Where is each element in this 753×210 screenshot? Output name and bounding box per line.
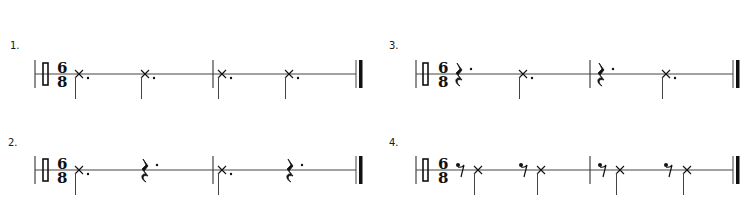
final-barline-thick xyxy=(736,156,740,184)
dot-icon xyxy=(87,173,89,175)
rest-flag xyxy=(600,165,606,177)
dot-icon xyxy=(230,173,232,175)
time-signature-bottom: 8 xyxy=(57,169,67,187)
dot-icon xyxy=(470,68,472,70)
dot-icon xyxy=(297,77,299,79)
rest-dot-head xyxy=(519,163,523,167)
dot-icon xyxy=(230,77,232,79)
rest-dot-head xyxy=(664,163,668,167)
staff-exercise-1: 68 xyxy=(35,59,363,99)
dot-icon xyxy=(301,164,303,166)
rest-dot-head xyxy=(598,163,602,167)
dot-icon xyxy=(531,77,533,79)
rest-flag xyxy=(666,165,672,177)
percussion-staves: 68686868 xyxy=(0,0,753,210)
staff-exercise-2: 68 xyxy=(35,155,363,195)
dot-icon xyxy=(156,164,158,166)
time-signature-bottom: 8 xyxy=(438,73,448,91)
final-barline-thick xyxy=(359,60,363,88)
dot-icon xyxy=(674,77,676,79)
dot-icon xyxy=(153,77,155,79)
rest-dot-head xyxy=(456,163,460,167)
time-signature-bottom: 8 xyxy=(438,169,448,187)
final-barline-thick xyxy=(736,60,740,88)
dot-icon xyxy=(87,77,89,79)
staff-exercise-3: 68 xyxy=(416,59,740,99)
rest-flag xyxy=(521,165,527,177)
dot-icon xyxy=(612,68,614,70)
rest-flag xyxy=(458,165,464,177)
time-signature-bottom: 8 xyxy=(57,73,67,91)
rhythm-exercise-sheet: 1. 2. 3. 4. 68686868 xyxy=(0,0,753,210)
staff-exercise-4: 68 xyxy=(416,155,740,195)
final-barline-thick xyxy=(359,156,363,184)
